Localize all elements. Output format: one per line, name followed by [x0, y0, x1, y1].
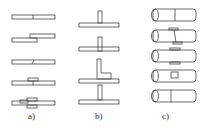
b-filleted-t-joint	[79, 85, 119, 104]
c-tube-sleeve	[152, 48, 197, 64]
group-b	[79, 11, 119, 104]
b-inserted-t-joint	[79, 37, 119, 51]
a-butt-joint	[12, 15, 55, 19]
a-strap-joint	[12, 78, 55, 85]
label-a: a)	[28, 111, 35, 121]
a-double-strap-joint	[12, 98, 55, 108]
c-tube-insert	[152, 70, 197, 82]
c-tube-butt	[152, 9, 197, 21]
a-scarf-joint	[12, 60, 55, 64]
group-c	[152, 9, 197, 102]
label-b: b)	[95, 111, 103, 121]
b-angle-t-joint	[79, 59, 119, 83]
c-tube-plain	[152, 90, 197, 102]
label-c: c)	[162, 111, 169, 121]
b-t-joint	[79, 11, 119, 27]
c-tube-scarf-sleeve	[152, 28, 197, 44]
group-a	[12, 15, 55, 108]
a-lap-joint	[12, 34, 55, 42]
